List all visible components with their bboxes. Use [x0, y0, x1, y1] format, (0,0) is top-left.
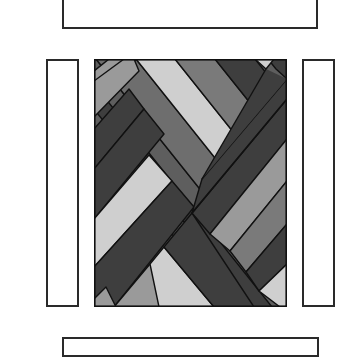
right-border-strip	[302, 59, 335, 307]
center-woven-panel	[94, 59, 287, 307]
left-border-strip	[46, 59, 79, 307]
top-border-strip	[62, 0, 318, 29]
bottom-border-strip	[62, 337, 319, 357]
woven-stripe-pattern	[94, 59, 287, 307]
